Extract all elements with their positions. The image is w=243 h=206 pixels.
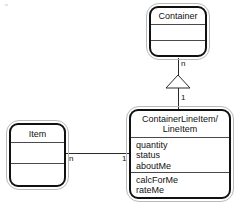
class-box-lineitem[interactable]: ContainerLineItem/ LineItem quantity sta… bbox=[129, 109, 231, 199]
multiplicity-association-target: 1 bbox=[122, 155, 126, 163]
uml-class-diagram-canvas: Container n 1 ContainerLineItem/ LineIte… bbox=[0, 0, 243, 206]
class-name-lineitem: ContainerLineItem/ LineItem bbox=[131, 111, 229, 138]
multiplicity-generalization-target: n bbox=[181, 60, 185, 68]
multiplicity-association-source: n bbox=[69, 155, 73, 163]
attribute-row: status bbox=[136, 150, 224, 160]
generalization-arrowhead-triangle-icon bbox=[165, 74, 191, 89]
class-operations-container bbox=[151, 41, 205, 55]
attribute-row: aboutMe bbox=[136, 161, 224, 171]
class-name-item: Item bbox=[11, 125, 64, 143]
operation-row: rateMe bbox=[136, 185, 224, 195]
class-attributes-lineitem: quantity status aboutMe bbox=[131, 138, 229, 173]
class-attributes-container bbox=[151, 25, 205, 41]
attribute-row: quantity bbox=[136, 140, 224, 150]
class-operations-item bbox=[11, 164, 64, 185]
class-attributes-item bbox=[11, 143, 64, 164]
generalization-line-lower bbox=[178, 88, 179, 110]
class-name-container: Container bbox=[151, 8, 205, 25]
class-box-container[interactable]: Container bbox=[149, 6, 207, 57]
class-operations-lineitem: calcForMe rateMe bbox=[131, 173, 229, 199]
multiplicity-generalization-source: 1 bbox=[181, 94, 185, 102]
association-line-item-lineitem bbox=[66, 153, 130, 154]
operation-row: calcForMe bbox=[136, 175, 224, 185]
class-box-item[interactable]: Item bbox=[9, 123, 66, 187]
canvas-artifact-speck bbox=[5, 4, 8, 6]
